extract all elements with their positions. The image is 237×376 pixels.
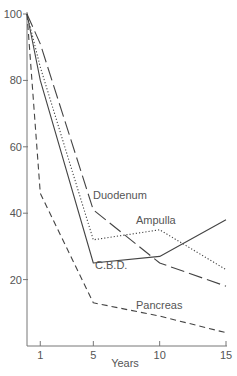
series-line-cbd (27, 14, 226, 263)
y-tick-label: 40 (10, 207, 22, 219)
series-label: C.B.D. (95, 259, 127, 271)
x-tick-label: 1 (37, 349, 43, 361)
series-line-ampulla (27, 14, 226, 270)
y-tick-label: 80 (10, 74, 22, 86)
series-line-pancreas (27, 14, 226, 333)
series-line-duodenum (27, 14, 226, 286)
y-tick-label: 100 (4, 8, 22, 20)
series-label: Ampulla (136, 214, 177, 226)
y-tick-label: 20 (10, 274, 22, 286)
series-lines (27, 14, 226, 333)
chart-canvas: 20406080100151015 DuodenumAmpullaC.B.D.P… (0, 0, 237, 376)
series-label: Pancreas (136, 299, 183, 311)
x-axis-label: Years (111, 357, 139, 369)
x-tick-label: 5 (90, 349, 96, 361)
y-tick-label: 60 (10, 141, 22, 153)
x-tick-label: 15 (220, 349, 232, 361)
x-tick-label: 10 (154, 349, 166, 361)
series-label: Duodenum (93, 189, 147, 201)
axes: 20406080100151015 (4, 8, 232, 361)
survival-line-chart: 20406080100151015 DuodenumAmpullaC.B.D.P… (0, 0, 237, 376)
series-labels: DuodenumAmpullaC.B.D.Pancreas (93, 189, 183, 311)
